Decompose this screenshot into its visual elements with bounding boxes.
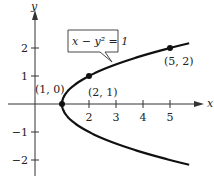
point-label: (1, 0) [35,83,65,96]
y-tick-label: 1 [21,70,28,83]
x-tick-label: 4 [140,111,147,124]
x-axis-label: x [207,97,214,110]
data-points: (1, 0)(2, 1)(5, 2) [35,45,194,107]
x-tick-label: 3 [113,111,120,124]
point-marker [59,101,65,107]
y-tick-label: 2 [21,42,28,55]
x-axis-arrow-icon [194,101,204,107]
x-tick-label: 5 [167,111,174,124]
labels: x − y² = 1 [68,30,128,62]
point-marker [86,73,92,79]
point-label: (2, 1) [88,86,118,99]
y-tick-label: −1 [12,126,28,139]
y-axis-label: y [30,0,38,13]
equation-label: x − y² = 1 [72,35,128,48]
point-label: (5, 2) [164,55,194,68]
point-marker [167,45,173,51]
x-tick-label: 2 [86,111,93,124]
parabola-chart: xy2345−2−112 (1, 0)(2, 1)(5, 2) x − y² =… [0,0,214,181]
y-tick-label: −2 [12,154,28,167]
